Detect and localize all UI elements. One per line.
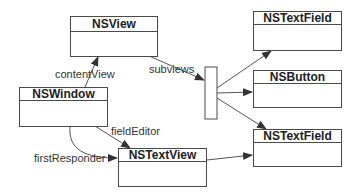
edge-textview-textfield [207, 155, 252, 160]
node-title: NSTextView [119, 149, 206, 162]
node-title: NSTextField [254, 130, 341, 143]
node-title: NSWindow [20, 88, 107, 101]
node-nsbutton: NSButton [253, 70, 342, 108]
label-subviews: subviews [149, 63, 194, 75]
node-nswindow: NSWindow [19, 87, 108, 127]
node-title: NSView [71, 17, 157, 32]
node-title: NSTextField [254, 12, 341, 25]
node-title: NSButton [254, 71, 341, 84]
edge-array-button [217, 92, 252, 93]
node-nstextview: NSTextView [118, 148, 207, 187]
subviews-array [205, 67, 217, 119]
label-contentview: contentView [55, 68, 115, 80]
node-nsview: NSView [70, 16, 158, 57]
label-firstresponder: firstResponder [34, 152, 106, 164]
node-nstextfield-top: NSTextField [253, 11, 342, 51]
label-fieldeditor: fieldEditor [111, 125, 160, 137]
node-nstextfield-bottom: NSTextField [253, 129, 342, 167]
